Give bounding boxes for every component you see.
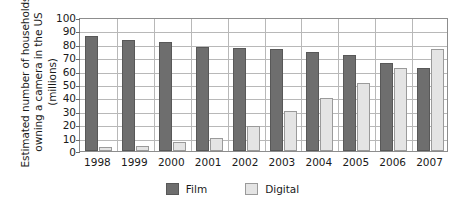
bar-digital	[99, 147, 112, 151]
bar-group	[196, 19, 228, 151]
y-axis-tick-label: 10	[54, 134, 76, 144]
x-axis-tick-label: 2002	[225, 156, 265, 168]
legend-swatch-film-icon	[166, 183, 179, 195]
bar-group	[380, 19, 412, 151]
y-axis-tick-label: 90	[54, 26, 76, 36]
bar-film	[122, 40, 135, 151]
y-axis-tick-label: 100	[54, 13, 76, 23]
bar-group	[233, 19, 265, 151]
y-axis-tick-label: 30	[54, 107, 76, 117]
bar-group	[85, 19, 117, 151]
y-axis-tick-label: 20	[54, 120, 76, 130]
bar-film	[196, 47, 209, 151]
bar-group	[159, 19, 191, 151]
plot-area	[79, 18, 448, 152]
legend-label-film: Film	[186, 183, 207, 195]
bar-chart: Estimated number of households owning a …	[0, 0, 465, 209]
bar-digital	[247, 126, 260, 151]
x-axis-tick-label: 2006	[373, 156, 413, 168]
x-axis-tick-label: 2007	[410, 156, 450, 168]
bar-film	[380, 63, 393, 151]
x-axis-tick-label: 1998	[77, 156, 117, 168]
bar-group	[343, 19, 375, 151]
x-axis-tick-label: 2005	[336, 156, 376, 168]
y-axis-tick-label: 60	[54, 67, 76, 77]
y-axis-title-line-1: Estimated number of households	[19, 0, 33, 167]
bar-digital	[173, 142, 186, 151]
y-axis-tickmark	[76, 152, 80, 153]
bar-digital	[320, 98, 333, 151]
legend-label-digital: Digital	[265, 183, 299, 195]
legend-entry-digital: Digital	[245, 183, 299, 195]
bar-digital	[210, 138, 223, 151]
bar-digital	[284, 111, 297, 151]
bar-group	[122, 19, 154, 151]
bar-digital	[357, 83, 370, 151]
y-axis-tick-label: 0	[54, 147, 76, 157]
y-axis-tick-label: 50	[54, 80, 76, 90]
x-axis-tick-label: 2001	[188, 156, 228, 168]
x-axis-tick-label: 2000	[151, 156, 191, 168]
bar-group	[270, 19, 302, 151]
y-axis-tick-label: 40	[54, 93, 76, 103]
legend-entry-film: Film	[166, 183, 207, 195]
x-axis-tick-label: 1999	[114, 156, 154, 168]
bar-digital	[394, 68, 407, 151]
x-axis-tick-labels: 1998199920002001200220032004200520062007	[79, 156, 448, 172]
bar-film	[417, 68, 430, 151]
bars-layer	[80, 19, 447, 151]
bar-digital	[136, 146, 149, 151]
bar-group	[417, 19, 449, 151]
y-axis-tick-label: 80	[54, 40, 76, 50]
y-axis-title-line-2: owning a camera in the US	[32, 12, 46, 151]
bar-group	[306, 19, 338, 151]
x-axis-tick-label: 2003	[262, 156, 302, 168]
x-axis-tick-label: 2004	[299, 156, 339, 168]
bar-film	[343, 55, 356, 151]
legend-swatch-digital-icon	[245, 183, 258, 195]
y-axis-tick-label: 70	[54, 53, 76, 63]
bar-film	[85, 36, 98, 151]
bar-film	[159, 42, 172, 151]
chart-legend: Film Digital	[0, 183, 465, 195]
bar-film	[270, 49, 283, 151]
bar-film	[306, 52, 319, 151]
y-axis-tick-labels: 1009080706050403020100	[54, 18, 76, 152]
bar-film	[233, 48, 246, 151]
bar-digital	[431, 49, 444, 152]
